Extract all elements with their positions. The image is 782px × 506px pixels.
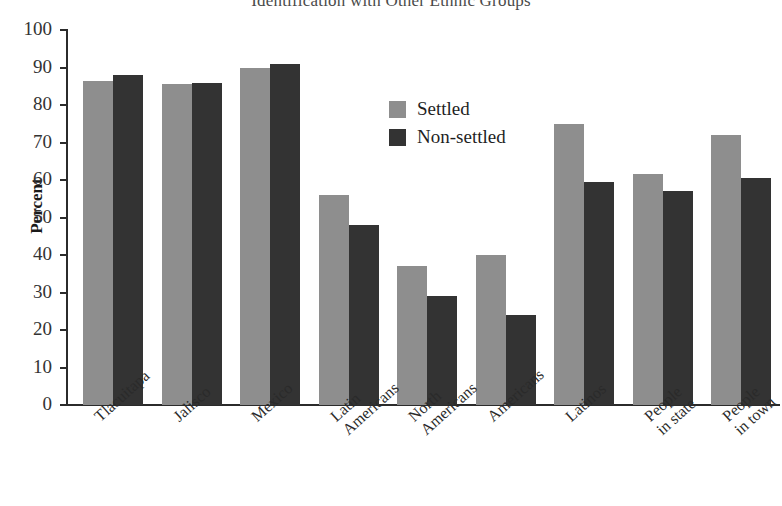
y-axis-tick-label: 100: [0, 19, 52, 38]
y-axis-tick-label: 90: [0, 57, 52, 76]
bar-non-settled: [741, 178, 771, 405]
y-axis-tick-label: 10: [0, 357, 52, 376]
bar-non-settled: [663, 191, 693, 405]
legend-swatch-icon: [389, 101, 406, 118]
legend-swatch-icon: [389, 129, 406, 146]
bar-group: [397, 30, 457, 405]
bar-settled: [633, 174, 663, 405]
bar-group: [162, 30, 222, 405]
bar-group: [633, 30, 693, 405]
bar-settled: [554, 124, 584, 405]
bar-chart-figure: Identification with Other Ethnic Groups …: [0, 0, 782, 506]
bar-group: [319, 30, 379, 405]
bar-settled: [476, 255, 506, 405]
bar-group: [476, 30, 536, 405]
plot-area: [67, 30, 779, 405]
y-axis-tick-label: 20: [0, 319, 52, 338]
y-axis-tick-label: 40: [0, 244, 52, 263]
legend-item-settled: Settled: [389, 95, 506, 123]
bar-non-settled: [192, 83, 222, 406]
bar-group: [240, 30, 300, 405]
bar-settled: [711, 135, 741, 405]
y-axis-tick-label: 60: [0, 169, 52, 188]
legend-label: Settled: [417, 98, 470, 120]
bar-non-settled: [584, 182, 614, 405]
y-axis-tick-label: 0: [0, 394, 52, 413]
bar-settled: [162, 84, 192, 405]
chart-legend: Settled Non-settled: [389, 95, 506, 151]
legend-item-non-settled: Non-settled: [389, 123, 506, 151]
bar-non-settled: [113, 75, 143, 405]
legend-label: Non-settled: [417, 126, 506, 148]
bar-non-settled: [270, 64, 300, 405]
y-axis-tick-label: 30: [0, 282, 52, 301]
bar-settled: [397, 266, 427, 405]
y-axis-tick-label: 80: [0, 94, 52, 113]
chart-title: Identification with Other Ethnic Groups: [0, 0, 782, 11]
y-axis-tick-label: 70: [0, 132, 52, 151]
bar-settled: [319, 195, 349, 405]
bar-settled: [83, 81, 113, 405]
bar-settled: [240, 68, 270, 406]
bar-group: [711, 30, 771, 405]
y-axis-tick-label: 50: [0, 207, 52, 226]
bar-group: [83, 30, 143, 405]
bar-group: [554, 30, 614, 405]
